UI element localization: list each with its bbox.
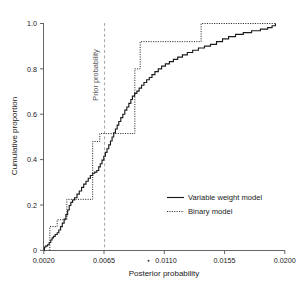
x-axis-ticks (44, 251, 285, 255)
y-tick-label: 1.0 (27, 19, 37, 28)
y-tick-label: 0.8 (27, 65, 37, 74)
y-tick-label: 0.6 (27, 110, 37, 119)
print-artifact-dot (148, 260, 150, 262)
x-axis-title: Posterior probability (129, 269, 200, 278)
chart-legend: Variable weight model Binary model (167, 193, 262, 216)
x-tick-label: 0.0155 (214, 256, 236, 265)
chart-figure: 1.0 0.8 0.6 0.4 0.2 0 0.0020 0.0065 0.01… (0, 0, 301, 289)
chart-canvas: 1.0 0.8 0.6 0.4 0.2 0 0.0020 0.0065 0.01… (0, 0, 301, 289)
legend-label-binary-model: Binary model (188, 207, 233, 216)
y-axis-ticks (40, 24, 44, 251)
y-tick-label: 0 (33, 246, 37, 255)
legend-label-variable-weight-model: Variable weight model (188, 193, 262, 202)
x-tick-label: 0.0065 (93, 256, 115, 265)
series-binary-model (50, 24, 276, 251)
y-axis-title: Cumulative proportion (10, 97, 19, 175)
x-tick-label: 0.0020 (33, 256, 55, 265)
x-tick-label: 0.0200 (274, 256, 296, 265)
x-tick-label: 0.0110 (155, 256, 176, 265)
y-tick-label: 0.2 (27, 201, 37, 210)
y-tick-label: 0.4 (27, 155, 37, 164)
prior-probability-label: Prior probability (91, 49, 100, 101)
series-variable-weight-model (44, 24, 276, 251)
